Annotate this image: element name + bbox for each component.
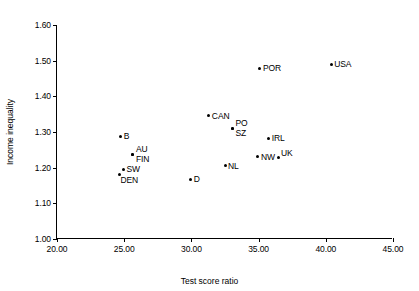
x-axis-tick-label: 25.00	[114, 245, 135, 254]
x-axis-tick	[393, 238, 394, 242]
y-axis-tick	[53, 25, 57, 26]
x-axis-tick-label: 20.00	[47, 245, 68, 254]
data-point-label: SW	[127, 165, 141, 174]
data-point-label: SZ	[235, 129, 246, 138]
x-axis-tick-label: 40.00	[315, 245, 336, 254]
plot-area: 1.601.501.401.301.201.101.00 20.0025.003…	[56, 25, 392, 239]
data-point-marker	[189, 178, 192, 181]
x-axis-title: Test score ratio	[0, 277, 419, 286]
y-axis-tick	[53, 96, 57, 97]
data-point-marker	[224, 164, 227, 167]
data-point-marker	[131, 153, 134, 156]
data-point-label: USA	[334, 60, 351, 69]
y-axis-tick-label: 1.10	[35, 199, 51, 208]
data-point-label: PO	[235, 119, 247, 128]
y-axis-tick-label: 1.20	[35, 163, 51, 172]
x-axis-tick-label: 35.00	[248, 245, 269, 254]
data-point-marker	[330, 63, 333, 66]
y-axis-tick-label: 1.60	[35, 21, 51, 30]
data-point-marker	[256, 155, 259, 158]
y-axis-tick	[53, 203, 57, 204]
x-axis-tick	[57, 238, 58, 242]
y-axis-title: Income inequality	[6, 99, 15, 165]
x-axis-tick-label: 30.00	[181, 245, 202, 254]
y-axis-tick-label: 1.30	[35, 128, 51, 137]
x-axis-tick	[191, 238, 192, 242]
y-axis-tick-label: 1.50	[35, 56, 51, 65]
data-point-label: B	[124, 132, 130, 141]
x-axis-tick	[124, 238, 125, 242]
data-point-label: FIN	[136, 155, 149, 164]
data-point-label: UK	[281, 149, 293, 158]
data-point-marker	[207, 114, 210, 117]
data-point-label: D	[194, 175, 200, 184]
data-point-label: DEN	[120, 176, 138, 185]
data-point-label: AU	[136, 145, 148, 154]
y-axis-tick	[53, 61, 57, 62]
data-point-marker	[277, 156, 280, 159]
x-axis-tick	[326, 238, 327, 242]
y-axis-tick-label: 1.00	[35, 235, 51, 244]
y-axis-tick	[53, 132, 57, 133]
y-axis-tick-label: 1.40	[35, 92, 51, 101]
x-axis-tick	[259, 238, 260, 242]
data-point-marker	[231, 127, 234, 130]
data-point-label: IRL	[272, 134, 285, 143]
data-point-label: NW	[261, 153, 275, 162]
data-point-marker	[267, 137, 270, 140]
data-point-marker	[119, 135, 122, 138]
x-axis-tick-label: 45.00	[383, 245, 404, 254]
data-point-label: POR	[263, 64, 281, 73]
data-point-marker	[122, 168, 125, 171]
y-axis-tick	[53, 168, 57, 169]
data-point-label: NL	[228, 162, 239, 171]
data-point-marker	[258, 67, 261, 70]
data-point-label: CAN	[212, 112, 230, 121]
scatter-chart-figure: 1.601.501.401.301.201.101.00 20.0025.003…	[0, 0, 419, 291]
